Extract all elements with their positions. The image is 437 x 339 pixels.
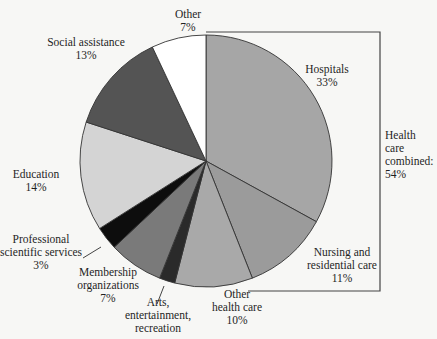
label-hospitals-name: Hospitals — [292, 63, 362, 76]
label-other-health-line2: health care — [202, 301, 272, 314]
label-social-name: Social assistance — [36, 36, 136, 49]
label-hospitals: Hospitals 33% — [292, 63, 362, 89]
label-social-pct: 13% — [36, 49, 136, 62]
label-social-assistance: Social assistance 13% — [36, 36, 136, 62]
label-health-line1: Health — [385, 129, 437, 142]
label-other-health-pct: 10% — [202, 314, 272, 327]
label-education: Education 14% — [6, 168, 66, 194]
label-membership-line2: organizations — [68, 279, 148, 292]
label-nursing-line2: residential care — [302, 259, 382, 272]
label-health-care-combined: Health care combined: 54% — [385, 129, 437, 181]
label-hospitals-pct: 33% — [292, 76, 362, 89]
label-other-health-line1: Other — [202, 288, 272, 301]
label-health-pct: 54% — [385, 168, 437, 181]
label-other-name: Other — [166, 8, 210, 21]
label-education-pct: 14% — [6, 181, 66, 194]
label-education-name: Education — [6, 168, 66, 181]
label-membership-line1: Membership — [68, 266, 148, 279]
label-professional-line1: Professional — [0, 233, 82, 246]
label-other-health-care: Other health care 10% — [202, 288, 272, 327]
label-arts: Arts, entertainment, recreation — [118, 296, 198, 335]
label-nursing-pct: 11% — [302, 272, 382, 285]
label-arts-line1: Arts, — [118, 296, 198, 309]
label-nursing-line1: Nursing and — [302, 246, 382, 259]
label-health-line2: care — [385, 142, 437, 155]
label-arts-line3: recreation — [118, 322, 198, 335]
professional-leader-line — [83, 247, 101, 258]
label-arts-line2: entertainment, — [118, 309, 198, 322]
label-other: Other 7% — [166, 8, 210, 34]
label-nursing: Nursing and residential care 11% — [302, 246, 382, 285]
label-health-line3: combined: — [385, 155, 437, 168]
label-professional-line2: scientific services — [0, 246, 82, 259]
label-other-pct: 7% — [166, 21, 210, 34]
